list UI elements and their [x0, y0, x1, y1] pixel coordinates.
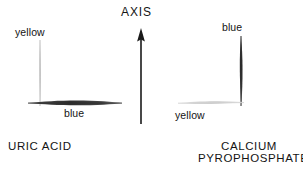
crystal-birefringence-figure: AXIS yellow	[0, 0, 303, 179]
calcium-pyrophosphate-caption: CALCIUM PYROPHOSPHATE	[198, 140, 300, 164]
uric-acid-horizontal-crystal-label: blue	[64, 108, 84, 119]
calcium-pyrophosphate-vertical-crystal-label: blue	[222, 22, 242, 33]
axis-arrow-icon	[128, 27, 154, 127]
calcium-pyrophosphate-vertical-crystal	[234, 36, 248, 106]
calcium-pyrophosphate-caption-line-1: CALCIUM	[198, 140, 300, 152]
uric-acid-caption: URIC ACID	[8, 140, 72, 152]
calcium-pyrophosphate-caption-line-2: PYROPHOSPHATE	[198, 152, 300, 164]
calcium-pyrophosphate-horizontal-crystal	[178, 98, 244, 108]
calcium-pyrophosphate-horizontal-crystal-label: yellow	[175, 110, 205, 121]
axis-label: AXIS	[121, 6, 152, 19]
uric-acid-vertical-crystal-label: yellow	[15, 27, 45, 38]
